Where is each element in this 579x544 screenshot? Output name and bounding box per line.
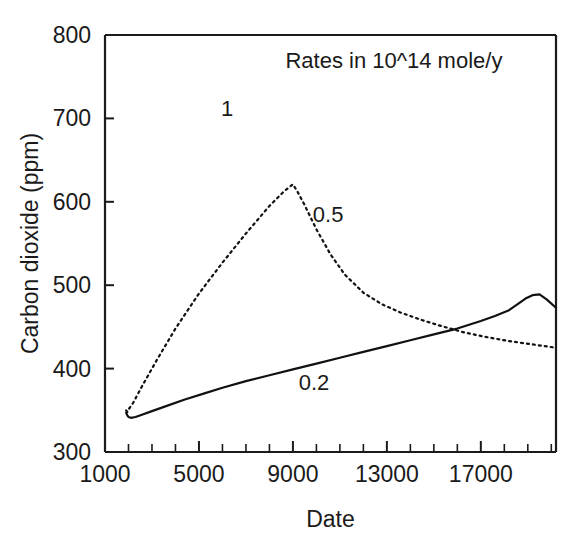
series-label-1: 1 xyxy=(221,96,233,121)
series-label-0-2: 0.2 xyxy=(299,370,330,395)
y-axis-title: Carbon dioxide (ppm) xyxy=(17,133,43,354)
x-tick-label: 13000 xyxy=(355,461,419,487)
y-tick-label: 400 xyxy=(53,356,91,382)
series-label-0-5: 0.5 xyxy=(313,202,344,227)
x-tick-label: 9000 xyxy=(267,461,318,487)
x-axis-title: Date xyxy=(306,506,355,532)
rates-note: Rates in 10^14 mole/y xyxy=(285,48,502,73)
x-tick-label: 5000 xyxy=(173,461,224,487)
x-tick-label: 17000 xyxy=(449,461,513,487)
chart-svg: 300400500600700800 100050009000130001700… xyxy=(0,0,579,544)
y-tick-label: 600 xyxy=(53,189,91,215)
y-tick-label: 800 xyxy=(53,22,91,48)
x-tick-label: 1000 xyxy=(79,461,130,487)
y-tick-label: 700 xyxy=(53,105,91,131)
chart-figure: 300400500600700800 100050009000130001700… xyxy=(0,0,579,544)
y-tick-label: 500 xyxy=(53,272,91,298)
